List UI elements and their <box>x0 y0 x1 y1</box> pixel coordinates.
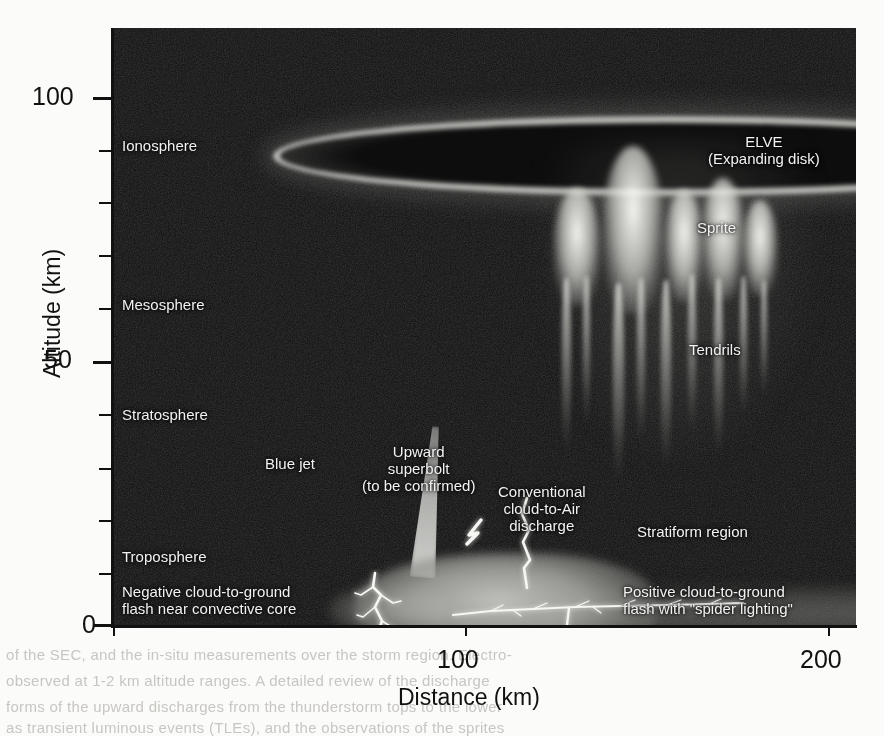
sprite-head <box>664 190 704 302</box>
cloud-to-air-discharge <box>461 518 491 546</box>
annotation-stratiform: Stratiform region <box>637 523 748 540</box>
x-axis-title: Distance (km) <box>398 684 540 711</box>
negative-cloud-to-ground-flash <box>335 573 425 625</box>
y-axis-title: Altitude (km) <box>39 224 66 404</box>
sprite-tendril <box>613 283 624 481</box>
x-tick-0 <box>113 626 115 636</box>
sprite-tendril <box>583 276 590 426</box>
sprite-tendril <box>562 278 571 453</box>
x-tick-200 <box>828 626 830 636</box>
layer-label-stratosphere: Stratosphere <box>122 406 208 423</box>
y-tick-70 <box>99 255 113 257</box>
x-tick-100 <box>465 626 467 636</box>
x-tick-label-100: 100 <box>437 645 479 674</box>
y-tick-label-100: 100 <box>32 82 74 111</box>
y-tick-30 <box>99 468 113 470</box>
layer-label-ionosphere: Ionosphere <box>122 137 197 154</box>
sprite-tendril <box>637 278 645 443</box>
sprite-tendril <box>761 280 767 400</box>
annotation-sprite: Sprite <box>697 219 736 236</box>
y-tick-80 <box>99 202 113 204</box>
annotation-blue-jet: Blue jet <box>265 455 315 472</box>
y-axis-line <box>111 28 114 628</box>
y-tick-60 <box>99 308 113 310</box>
y-tick-label-0: 0 <box>82 610 96 639</box>
x-tick-label-200: 200 <box>800 645 842 674</box>
sprite-head <box>742 200 778 296</box>
sprite-head <box>602 146 664 314</box>
annotation-cloud-to-air: Conventional cloud-to-Air discharge <box>498 483 586 534</box>
layer-label-mesosphere: Mesosphere <box>122 296 205 313</box>
sprite-tendril <box>714 278 723 456</box>
sprite-head <box>701 178 745 300</box>
sprite-tendril <box>661 280 671 468</box>
y-tick-50 <box>93 361 113 364</box>
annotation-positive-cg: Positive cloud-to-ground flash with "spi… <box>623 583 793 617</box>
x-axis-line <box>113 625 857 628</box>
y-tick-0 <box>93 624 113 627</box>
y-tick-40 <box>99 414 113 416</box>
plot-area: Ionosphere Mesosphere Stratosphere Tropo… <box>113 28 856 625</box>
annotation-upward-superbolt: Upward superbolt (to be confirmed) <box>362 443 475 494</box>
sprite-head <box>553 188 601 306</box>
y-tick-10 <box>99 573 113 575</box>
y-tick-100 <box>93 97 113 100</box>
y-tick-90 <box>99 150 113 152</box>
layer-label-troposphere: Troposphere <box>122 548 207 565</box>
sprite-tendril <box>740 276 747 418</box>
annotation-negative-cg: Negative cloud-to-ground flash near conv… <box>122 583 296 617</box>
y-tick-20 <box>99 520 113 522</box>
annotation-elve: ELVE (Expanding disk) <box>708 133 820 167</box>
annotation-tendrils: Tendrils <box>689 341 741 358</box>
